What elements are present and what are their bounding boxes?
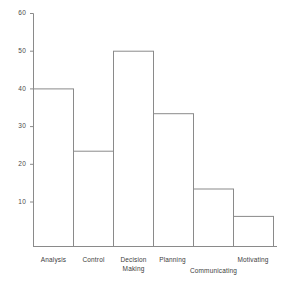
x-label-decision-line2: Making [111,265,156,274]
y-tick-label-40: 40 [10,85,26,93]
y-tick-label-10: 10 [10,198,26,206]
x-label-communicating: Communicating [176,267,251,276]
y-tick-label-30: 30 [10,122,26,130]
bar-planning [154,114,194,247]
y-tick-label-60: 60 [10,9,26,17]
bar-communicating [194,189,234,247]
x-label-motivating: Motivating [227,256,279,265]
bar-decision [114,51,154,246]
y-tick-label-50: 50 [10,47,26,55]
y-tick-label-20: 20 [10,160,26,168]
x-label-control: Control [73,256,114,265]
x-label-planning: Planning [152,256,193,265]
y-tick-marks [30,14,34,203]
bar-control [74,151,114,246]
chart-canvas [0,0,287,283]
bar-chart: 60 50 40 30 20 10 Analysis Control Decis… [0,0,287,283]
x-label-analysis: Analysis [33,256,74,265]
bar-motivating [234,216,274,246]
bar-analysis [34,89,74,247]
x-label-decision: Decision [111,256,156,265]
bar-series [34,51,274,246]
